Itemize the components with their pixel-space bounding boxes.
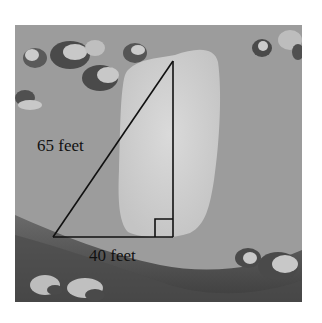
- monolith-photo: [0, 0, 322, 323]
- monolith-rock: [119, 50, 221, 238]
- hypotenuse-label: 65 feet: [37, 137, 84, 154]
- base-label: 40 feet: [89, 247, 136, 264]
- triangle-diagram: 65 feet 40 feet: [0, 0, 322, 323]
